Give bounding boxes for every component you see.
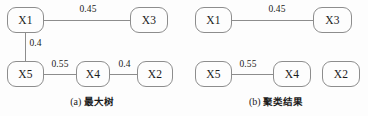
node-x5[interactable]: X5: [7, 61, 44, 87]
edge-x5-x4: [232, 74, 273, 75]
panel-a-caption-index: (a): [70, 96, 81, 107]
panel-a-caption: (a) 最大树: [0, 94, 184, 108]
edge-label-x1-x3: 0.45: [78, 4, 98, 14]
panel-b-caption-text: 聚类结果: [263, 96, 303, 107]
edge-label-x5-x4: 0.55: [238, 59, 258, 69]
panel-b-caption: (b) 聚类结果: [184, 94, 368, 108]
node-x1[interactable]: X1: [7, 7, 44, 33]
node-x2[interactable]: X2: [322, 61, 360, 87]
edge-label-x1-x5: 0.4: [28, 38, 43, 48]
edge-x4-x2: [110, 74, 137, 75]
panel-a-caption-text: 最大树: [84, 96, 114, 107]
edge-x5-x4: [44, 74, 76, 75]
panel-clustering-result: 0.45 0.55 X1 X3 X5 X4 X2 (b) 聚类结果: [184, 0, 368, 116]
figure-container: 0.45 0.4 0.55 0.4 X1 X3 X5 X4 X2 (a) 最大树…: [0, 0, 368, 116]
edge-x1-x3: [232, 20, 313, 21]
edge-label-x1-x3: 0.45: [267, 4, 287, 14]
node-x3[interactable]: X3: [313, 7, 352, 33]
edge-x1-x5: [25, 33, 26, 61]
panel-maximum-tree: 0.45 0.4 0.55 0.4 X1 X3 X5 X4 X2 (a) 最大树: [0, 0, 184, 116]
node-x1[interactable]: X1: [195, 7, 232, 33]
edge-label-x5-x4: 0.55: [50, 59, 70, 69]
node-x4[interactable]: X4: [76, 61, 110, 87]
node-x5[interactable]: X5: [195, 61, 232, 87]
node-x4[interactable]: X4: [273, 61, 311, 87]
edge-label-x4-x2: 0.4: [117, 59, 132, 69]
node-x2[interactable]: X2: [137, 61, 173, 87]
edge-x1-x3: [44, 20, 130, 21]
node-x3[interactable]: X3: [130, 7, 168, 33]
panel-b-caption-index: (b): [249, 96, 261, 107]
